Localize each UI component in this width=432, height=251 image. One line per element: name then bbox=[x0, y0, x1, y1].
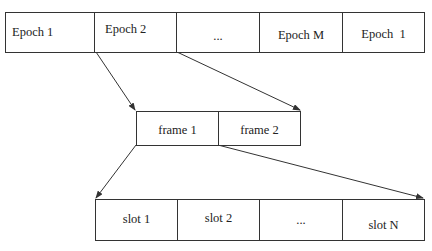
epoch-label: Epoch 1 bbox=[12, 25, 53, 40]
epoch-label: ... bbox=[213, 29, 222, 44]
slot-cell-1: slot 1 bbox=[95, 199, 178, 241]
epoch-cell-m: Epoch M bbox=[259, 12, 343, 53]
slot-label: ... bbox=[296, 213, 305, 228]
epoch-label: Epoch 2 bbox=[105, 22, 146, 37]
arrow-frame1-to-slot1 bbox=[96, 145, 136, 198]
epoch-cell-next: Epoch 1 bbox=[342, 12, 425, 53]
epoch-cell-2: Epoch 2 bbox=[94, 12, 177, 53]
epoch-label: Epoch 1 bbox=[361, 27, 405, 42]
slot-cell-ellipsis: ... bbox=[259, 199, 343, 241]
slot-cell-2: slot 2 bbox=[177, 199, 260, 241]
slot-label: slot N bbox=[368, 218, 398, 233]
frame-label: frame 2 bbox=[240, 123, 279, 138]
slot-cell-n: slot N bbox=[342, 199, 425, 241]
frame-cell-2: frame 2 bbox=[218, 111, 301, 146]
arrow-frame1-to-slotN bbox=[218, 145, 423, 198]
arrow-epoch2-to-frame2 bbox=[177, 52, 300, 110]
slot-label: slot 1 bbox=[123, 212, 150, 227]
frame-cell-1: frame 1 bbox=[136, 111, 219, 146]
epoch-label: Epoch M bbox=[278, 28, 324, 43]
slot-label: slot 2 bbox=[205, 211, 232, 226]
frame-label: frame 1 bbox=[158, 123, 197, 138]
arrow-epoch2-to-frame1 bbox=[96, 52, 135, 110]
epoch-cell-ellipsis: ... bbox=[176, 12, 260, 53]
epoch-cell-1: Epoch 1 bbox=[5, 12, 95, 53]
